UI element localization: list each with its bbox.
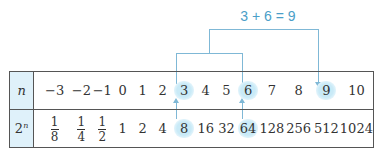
pow-cell-fraction: 12 xyxy=(92,110,113,148)
pow-cell: 256 xyxy=(284,110,313,148)
n-cell: 10 xyxy=(340,72,374,110)
pow-value-64: 64 xyxy=(238,119,258,138)
outer-bracket-top xyxy=(209,29,319,30)
pow-cell-fraction: 14 xyxy=(71,110,92,148)
n-cell: −1 xyxy=(92,72,113,110)
n-value-3: 3 xyxy=(174,81,194,100)
n-cell-highlighted: 9 xyxy=(313,72,340,110)
pow-cell: 2 xyxy=(133,110,153,148)
outer-bracket-left xyxy=(209,29,210,53)
pow-value-8: 8 xyxy=(174,119,194,138)
n-cell: 2 xyxy=(153,72,173,110)
row-header-pow: 2n xyxy=(10,110,34,148)
n-value-9: 9 xyxy=(316,81,336,100)
equation-label: 3 + 6 = 9 xyxy=(228,8,308,24)
n-cell: 0 xyxy=(113,72,133,110)
inner-bracket-top xyxy=(176,53,243,54)
pow-cell: 128 xyxy=(259,110,284,148)
n-cell: −2 xyxy=(71,72,92,110)
pow-cell: 512 xyxy=(313,110,340,148)
n-cell-highlighted: 6 xyxy=(237,72,260,110)
pow-cell: 4 xyxy=(153,110,173,148)
pow-cell: 1024 xyxy=(340,110,374,148)
n-value-6: 6 xyxy=(238,81,258,100)
denominator: 2 xyxy=(98,131,106,143)
pow-cell: 32 xyxy=(216,110,237,148)
n-cell: 5 xyxy=(216,72,237,110)
n-cell: 1 xyxy=(133,72,153,110)
n-cell: 4 xyxy=(195,72,216,110)
numerator: 1 xyxy=(78,116,86,128)
numerator: 1 xyxy=(51,116,59,128)
pow-row: 2n 18 14 12 1 2 4 8 16 32 64 128 256 512… xyxy=(10,110,374,148)
n-cell: 7 xyxy=(259,72,284,110)
row-header-n: n xyxy=(10,72,34,110)
pow-cell: 16 xyxy=(195,110,216,148)
n-cell: 8 xyxy=(284,72,313,110)
n-cell: −3 xyxy=(34,72,71,110)
n-row: n −3 −2 −1 0 1 2 3 4 5 6 7 8 9 10 xyxy=(10,72,374,110)
pow-cell: 1 xyxy=(113,110,133,148)
pow-cell-highlighted: 8 xyxy=(173,110,196,148)
powers-of-two-table: n −3 −2 −1 0 1 2 3 4 5 6 7 8 9 10 2n 18 … xyxy=(9,71,374,148)
denominator: 4 xyxy=(78,131,86,143)
denominator: 8 xyxy=(51,131,59,143)
pow-cell-highlighted: 64 xyxy=(237,110,260,148)
pow-cell-fraction: 18 xyxy=(34,110,71,148)
numerator: 1 xyxy=(98,116,106,128)
n-cell-highlighted: 3 xyxy=(173,72,196,110)
